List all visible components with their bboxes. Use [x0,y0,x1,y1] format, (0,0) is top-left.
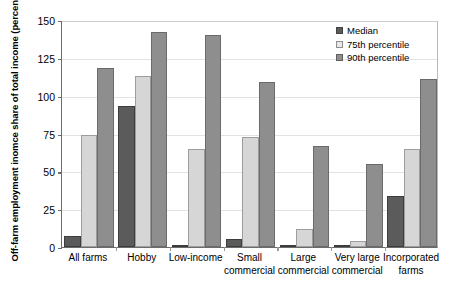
bar [334,245,350,247]
legend-label: Median [347,25,378,36]
bar [280,245,296,247]
bar-group [280,21,329,247]
legend-swatch-icon [336,41,343,48]
legend-label: 90th percentile [347,52,409,63]
legend-item: Median [336,25,409,36]
y-axis-label-container: Off-farm employment inomce share of tota… [0,0,30,255]
bar [118,106,134,247]
bar [242,137,258,247]
bar [205,35,221,247]
bar [135,76,151,247]
bar [81,135,97,247]
y-axis-tick-label: 25 [43,204,55,216]
y-axis-tick-label: 150 [37,15,55,27]
bar [313,146,329,247]
chart-figure: Off-farm employment inomce share of tota… [0,0,452,299]
y-axis-label: Off-farm employment inomce share of tota… [9,0,21,261]
legend-swatch-icon [336,27,343,34]
bar-group [64,21,113,247]
bar [404,149,420,247]
legend-swatch-icon [336,54,343,61]
bar [97,68,113,247]
x-axis-tick [331,247,332,251]
legend-item: 90th percentile [336,52,409,63]
bar [172,245,188,247]
bar-group [172,21,221,247]
bar [188,149,204,247]
x-axis-tick [277,247,278,251]
y-axis-tick-label: 125 [37,53,55,65]
bar [350,241,366,247]
bar [387,196,403,247]
x-axis-tick [170,247,171,251]
bar [226,239,242,247]
chart-legend: Median75th percentile90th percentile [336,25,409,63]
bar [420,79,436,247]
x-axis-tick [116,247,117,251]
bar [366,164,382,247]
bar-group [118,21,167,247]
x-axis-tick [385,247,386,251]
y-axis-tick [58,248,62,249]
y-axis-tick-label: 50 [43,166,55,178]
y-axis-tick-label: 75 [43,129,55,141]
x-axis-tick [224,247,225,251]
bar-group [226,21,275,247]
bar [64,236,80,247]
y-axis-tick-label: 100 [37,91,55,103]
bar [296,229,312,247]
legend-item: 75th percentile [336,39,409,50]
legend-label: 75th percentile [347,39,409,50]
bar [151,32,167,247]
x-axis-category-label: Incorporated farms [378,252,444,277]
bar [259,82,275,247]
